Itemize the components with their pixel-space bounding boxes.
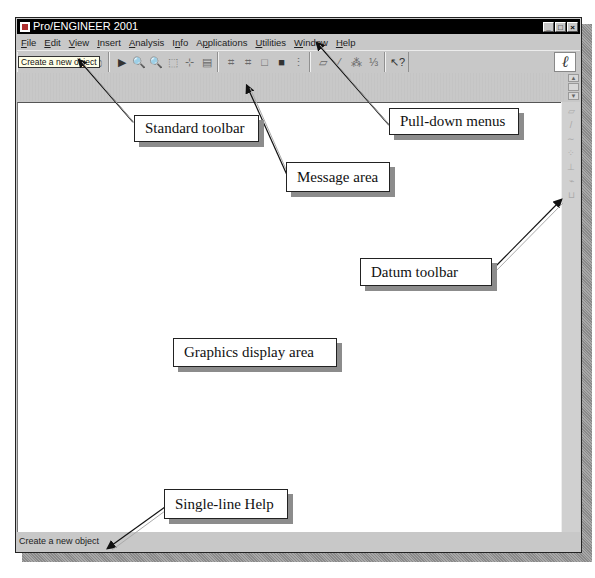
scroll-down-button[interactable]: ▼ xyxy=(568,92,579,100)
datum-curve-tool-icon[interactable]: ∼ xyxy=(564,132,578,146)
menu-analysis[interactable]: Analysis xyxy=(125,37,168,48)
message-scrollbar[interactable]: ▲ ▼ xyxy=(568,74,579,100)
datum-point-tool-icon[interactable]: ⁘ xyxy=(564,146,578,160)
menu-utilities[interactable]: Utilities xyxy=(251,37,290,48)
datum-evaluate-tool-icon[interactable]: ⊔ xyxy=(564,188,578,202)
menu-applications[interactable]: Applications xyxy=(192,37,251,48)
toolbar-group: ↖? xyxy=(385,52,409,72)
menu-window[interactable]: Window xyxy=(290,37,332,48)
wireframe-icon[interactable]: ⌗ xyxy=(223,55,238,70)
datum-plane-tool-icon[interactable]: ▱ xyxy=(564,104,578,118)
menu-insert[interactable]: Insert xyxy=(93,37,125,48)
datum-csys-tool-icon[interactable]: ⊥ xyxy=(564,160,578,174)
callout-label: Standard toolbar xyxy=(145,120,245,137)
no-hidden-icon[interactable]: □ xyxy=(257,55,272,70)
maximize-button[interactable]: □ xyxy=(555,22,566,32)
title-bar[interactable]: Pro/ENGINEER 2001 _ □ × xyxy=(17,19,580,34)
datum-points-icon[interactable]: ⁂ xyxy=(349,55,364,70)
datum-planes-icon[interactable]: ▱ xyxy=(315,55,330,70)
datum-analysis-tool-icon[interactable]: ⌁ xyxy=(564,174,578,188)
minimize-button[interactable]: _ xyxy=(543,22,554,32)
callout-message-area: Message area xyxy=(286,162,390,192)
callout-pull-down-menus: Pull-down menus xyxy=(389,108,519,135)
shading-icon[interactable]: ■ xyxy=(274,55,289,70)
callout-standard-toolbar: Standard toolbar xyxy=(134,115,259,142)
callout-label: Graphics display area xyxy=(184,344,314,361)
toolbar-group: ⌗⌗□■⋮ xyxy=(218,52,310,72)
message-area xyxy=(17,73,565,101)
toolbar-tooltip: Create a new object xyxy=(18,56,100,68)
callout-single-line-help: Single-line Help xyxy=(164,489,288,519)
coordinate-systems-icon[interactable]: ⅓ xyxy=(366,55,381,70)
standard-toolbar: 🗋📂▣⧉⎙▶🔍🔍⬚⊹▤⌗⌗□■⋮▱⁄⁂⅓↖?ℓ xyxy=(17,50,580,73)
refit-icon[interactable]: ⬚ xyxy=(165,55,180,70)
model-tree-icon[interactable]: ⋮ xyxy=(291,55,306,70)
proe-logo-icon[interactable]: ℓ xyxy=(554,52,576,72)
scroll-up-button[interactable]: ▲ xyxy=(568,74,579,82)
zoom-in-icon[interactable]: 🔍 xyxy=(131,55,146,70)
menu-edit[interactable]: Edit xyxy=(40,37,64,48)
menu-file[interactable]: File xyxy=(17,37,40,48)
datum-axis-tool-icon[interactable]: / xyxy=(564,118,578,132)
repaint-icon[interactable]: ▶ xyxy=(114,55,129,70)
datum-axes-icon[interactable]: ⁄ xyxy=(332,55,347,70)
app-icon xyxy=(20,22,30,32)
datum-toolbar: ▱/∼⁘⊥⌁⊔ xyxy=(561,102,580,532)
single-line-help: Create a new object xyxy=(17,532,580,551)
menu-view[interactable]: View xyxy=(65,37,93,48)
context-help-icon[interactable]: ↖? xyxy=(390,55,405,70)
callout-graphics-display-area: Graphics display area xyxy=(173,338,337,367)
menu-info[interactable]: Info xyxy=(168,37,192,48)
callout-label: Single-line Help xyxy=(175,496,274,513)
scroll-thumb[interactable] xyxy=(568,83,579,91)
close-button[interactable]: × xyxy=(567,22,578,32)
orient-icon[interactable]: ⊹ xyxy=(182,55,197,70)
callout-label: Datum toolbar xyxy=(371,264,458,281)
toolbar-group: ▱⁄⁂⅓ xyxy=(310,52,385,72)
callout-label: Message area xyxy=(297,169,378,186)
proe-window: Pro/ENGINEER 2001 _ □ × FileEditViewInse… xyxy=(15,17,582,553)
hidden-line-icon[interactable]: ⌗ xyxy=(240,55,255,70)
saved-views-icon[interactable]: ▤ xyxy=(199,55,214,70)
menu-help[interactable]: Help xyxy=(332,37,360,48)
callout-datum-toolbar: Datum toolbar xyxy=(360,258,492,286)
window-title: Pro/ENGINEER 2001 xyxy=(33,19,543,34)
callout-label: Pull-down menus xyxy=(400,113,505,130)
toolbar-group: ▶🔍🔍⬚⊹▤ xyxy=(109,52,218,72)
menu-bar: FileEditViewInsertAnalysisInfoApplicatio… xyxy=(17,35,580,50)
zoom-out-icon[interactable]: 🔍 xyxy=(148,55,163,70)
